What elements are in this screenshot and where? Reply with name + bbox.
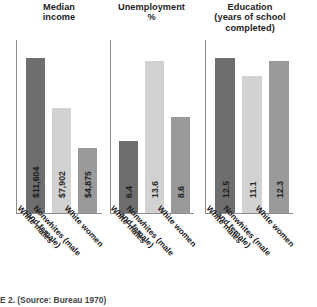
figure-caption-text: URE 2. (Source: Bureau 1970) — [0, 295, 106, 306]
bar-slot: 13.6 — [145, 40, 164, 213]
chart-panel-median-income: Median income $11,604 $7,902 — [0, 0, 104, 290]
chart-panel-education: Education (years of school completed) 12… — [197, 0, 299, 290]
chart-title-median-income: Median income — [0, 2, 104, 23]
bar-value-label: $11,604 — [31, 166, 41, 197]
bar-nonwhites[interactable]: 13.6 — [145, 61, 164, 213]
bar-nonwhites[interactable]: $7,902 — [52, 108, 71, 213]
bar-slot: 12.3 — [269, 40, 289, 213]
bar-value-label: $7,902 — [57, 171, 67, 198]
bar-group-median-income: $11,604 $7,902 $4,875 — [17, 40, 102, 213]
bar-group-unemployment: 6.4 13.6 8.6 — [111, 40, 194, 213]
bar-group-education: 12.5 11.1 12.3 — [206, 40, 293, 213]
bar-value-label: $4,875 — [83, 171, 93, 198]
bar-white-women[interactable]: 8.6 — [171, 117, 190, 213]
bar-value-label: 6.4 — [124, 185, 134, 197]
bar-slot: $7,902 — [52, 40, 71, 213]
bar-slot: 8.6 — [171, 40, 190, 213]
figure-caption: URE 2. (Source: Bureau 1970) — [0, 295, 299, 307]
chart-panel-group: Median income $11,604 $7,902 — [0, 0, 299, 290]
plot-area-unemployment: 6.4 13.6 8.6 — [110, 40, 194, 214]
x-axis-category-labels: White males Nonwhites (male and female) … — [205, 204, 317, 278]
chart-panel-unemployment: Unemployment % 6.4 13.6 — [104, 0, 197, 290]
bar-white-males[interactable]: $11,604 — [26, 58, 45, 212]
bar-slot: 6.4 — [119, 40, 138, 213]
bar-nonwhites[interactable]: 11.1 — [242, 76, 262, 213]
bar-white-women[interactable]: 12.3 — [269, 61, 289, 213]
bar-white-males[interactable]: 6.4 — [119, 141, 138, 212]
bar-slot: 11.1 — [242, 40, 262, 213]
bar-value-label: 8.6 — [176, 185, 186, 197]
chart-title-education: Education (years of school completed) — [197, 2, 299, 33]
bar-value-label: 11.1 — [248, 181, 258, 198]
bar-slot: $4,875 — [78, 40, 97, 213]
bar-value-label: 12.3 — [275, 180, 285, 197]
bar-white-women[interactable]: $4,875 — [78, 148, 97, 213]
chart-title-unemployment: Unemployment % — [104, 2, 197, 23]
bar-slot: $11,604 — [26, 40, 45, 213]
bar-value-label: 12.5 — [221, 180, 231, 197]
plot-area-median-income: $11,604 $7,902 $4,875 — [16, 40, 102, 214]
bar-slot: 12.5 — [215, 40, 235, 213]
plot-area-education: 12.5 11.1 12.3 — [205, 40, 293, 214]
bar-value-label: 13.6 — [150, 180, 160, 197]
bar-white-males[interactable]: 12.5 — [215, 58, 235, 212]
